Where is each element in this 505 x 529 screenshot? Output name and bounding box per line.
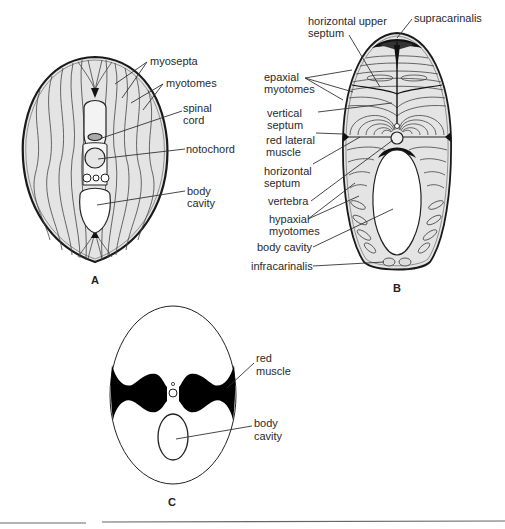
panel-label-a: A [91, 274, 99, 286]
panel-a-spinal-cord [88, 134, 102, 141]
label-horizontal-septum-line1: horizontal [264, 165, 312, 177]
label-myotomes: myotomes [166, 77, 217, 89]
panel-b-neural-spine [395, 124, 400, 129]
label-body-cavity-c-line1: body [254, 417, 278, 429]
label-body-cavity-line1: body [187, 185, 211, 197]
panel-c-vertebra [169, 389, 177, 397]
panel-c-body-cavity [158, 414, 188, 460]
panel-a-vessel [83, 174, 91, 182]
label-spinal-cord-line2: cord [183, 114, 204, 126]
label-vertical-septum-line1: vertical [267, 107, 302, 119]
panel-b-vertebra [391, 132, 403, 144]
label-horizontal-septum-line2: septum [264, 177, 300, 189]
label-vertebra: vertebra [268, 195, 309, 207]
label-body-cavity-line2: cavity [187, 197, 216, 209]
figure-canvas: myosepta myotomes spinal cord notochord … [0, 0, 505, 529]
panel-label-b: B [393, 282, 401, 294]
panel-a-vessel [101, 174, 109, 182]
label-hypaxial-myotomes-line2: myotomes [269, 225, 320, 237]
label-epaxial-myotomes-line2: myotomes [264, 83, 315, 95]
bottom-rule-right [102, 521, 505, 522]
label-horizontal-upper-septum-line2: septum [308, 27, 344, 39]
label-infracarinalis: infracarinalis [251, 260, 313, 272]
label-notochord: notochord [186, 143, 235, 155]
panel-label-c: C [168, 496, 176, 508]
label-red-muscle-line2: muscle [256, 365, 291, 377]
label-epaxial-myotomes-line1: epaxial [264, 71, 299, 83]
label-body-cavity: body cavity [257, 241, 313, 253]
label-horizontal-upper-septum-line1: horizontal upper [308, 15, 387, 27]
label-red-lateral-muscle-line1: red lateral [266, 134, 315, 146]
panel-a: myosepta myotomes spinal cord notochord … [23, 55, 235, 286]
label-red-muscle-line1: red [256, 352, 272, 364]
label-hypaxial-myotomes-line1: hypaxial [269, 213, 309, 225]
panel-b: horizontal upper septum supracarinalis e… [251, 12, 482, 294]
label-supracarinalis: supracarinalis [414, 12, 482, 24]
panel-b-infracarinalis-right [399, 258, 411, 266]
panel-a-notochord [85, 148, 105, 168]
label-myosepta: myosepta [150, 55, 199, 67]
panel-b-infracarinalis-left [383, 258, 395, 266]
panel-c-neural-spine [171, 382, 174, 385]
label-body-cavity-c-line2: cavity [254, 430, 283, 442]
label-red-lateral-muscle-line2: muscle [266, 146, 301, 158]
panel-c: red muscle body cavity C [110, 306, 291, 508]
label-spinal-cord-line1: spinal [183, 102, 212, 114]
panel-a-vessel [93, 175, 99, 181]
label-vertical-septum-line2: septum [267, 119, 303, 131]
